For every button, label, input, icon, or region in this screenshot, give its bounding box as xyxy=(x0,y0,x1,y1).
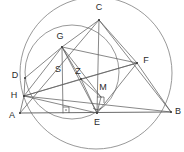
geometry-figure: C G F D S Z M H A E B xyxy=(0,0,184,152)
vertex-dot-b xyxy=(170,111,172,113)
segment-c-e xyxy=(97,20,99,113)
vertex-label-e: E xyxy=(94,117,100,127)
segment-g-f xyxy=(62,47,137,63)
segment-z-e xyxy=(81,79,97,113)
segment-g-s-foot xyxy=(62,47,63,113)
vertex-label-m: M xyxy=(99,82,107,92)
vertex-label-g: G xyxy=(56,31,63,41)
segment-z-f xyxy=(81,63,137,79)
vertex-dot-g xyxy=(61,46,63,48)
vertex-label-d: D xyxy=(12,70,19,80)
vertex-label-b: B xyxy=(175,106,181,116)
vertex-dot-group xyxy=(19,19,172,114)
vertex-dot-d xyxy=(24,77,26,79)
segment-h-e xyxy=(24,96,97,113)
vertex-dot-a xyxy=(19,112,21,114)
vertex-label-z: Z xyxy=(75,66,81,76)
segment-f-b xyxy=(137,63,171,112)
vertex-label-a: A xyxy=(9,110,15,120)
vertex-label-h: H xyxy=(11,90,18,100)
vertex-label-f: F xyxy=(143,55,149,65)
vertex-label-s: S xyxy=(55,64,61,74)
vertex-dot-z xyxy=(80,78,82,80)
segment-c-f xyxy=(99,20,137,63)
segment-h-d xyxy=(24,78,25,96)
vertex-dot-h xyxy=(23,95,25,97)
vertex-label-c: C xyxy=(96,2,103,12)
vertex-dot-f xyxy=(136,62,138,64)
vertex-dot-e xyxy=(96,112,98,114)
geometry-canvas: C G F D S Z M H A E B xyxy=(0,0,184,152)
segment-g-m xyxy=(62,47,101,97)
right-angle-dot-s-foot xyxy=(65,109,66,110)
vertex-dot-c xyxy=(98,19,100,21)
segment-group xyxy=(20,20,171,113)
segment-c-g xyxy=(62,20,99,47)
